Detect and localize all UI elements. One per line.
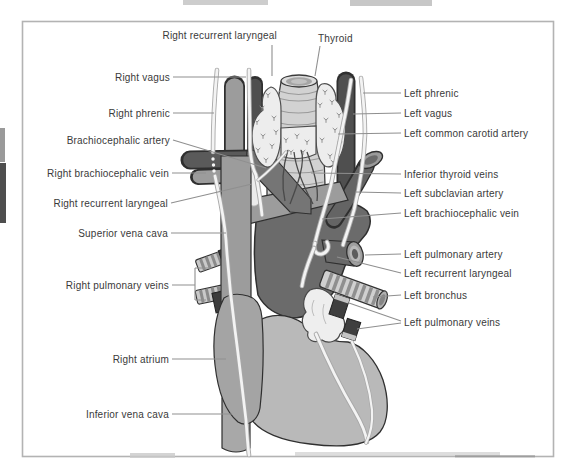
label-right-vagus: Right vagus [115,72,170,83]
label-right-recurrent-laryngeal: Right recurrent laryngeal [54,198,169,209]
label-superior-vena-cava: Superior vena cava [78,228,168,239]
label-left-pulmonary-artery: Left pulmonary artery [404,249,503,260]
label-thyroid: Thyroid [318,33,353,44]
label-inferior-vena-cava: Inferior vena cava [86,409,169,420]
diagram-canvas: Right recurrent laryngeal Thyroid Right … [0,0,575,475]
label-right-recurrent-laryngeal-top: Right recurrent laryngeal [163,30,278,41]
label-left-brachiocephalic-vein: Left brachiocephalic vein [404,208,519,219]
label-left-bronchus: Left bronchus [404,290,467,301]
label-brachiocephalic-artery: Brachiocephalic artery [67,135,170,146]
label-left-pulmonary-veins: Left pulmonary veins [404,317,500,328]
label-right-atrium: Right atrium [113,354,169,365]
label-right-pulmonary-veins: Right pulmonary veins [66,280,169,291]
label-right-phrenic: Right phrenic [108,108,170,119]
label-right-brachiocephalic-vein: Right brachiocephalic vein [47,168,169,179]
anatomy-figure: Right recurrent laryngeal Thyroid Right … [0,0,575,475]
label-left-subclavian-artery: Left subclavian artery [404,188,503,199]
label-left-phrenic: Left phrenic [404,88,459,99]
label-left-vagus: Left vagus [404,108,452,119]
label-left-recurrent-laryngeal: Left recurrent laryngeal [404,268,512,279]
label-left-common-carotid-artery: Left common carotid artery [404,128,528,139]
label-inferior-thyroid-veins: Inferior thyroid veins [404,169,498,180]
